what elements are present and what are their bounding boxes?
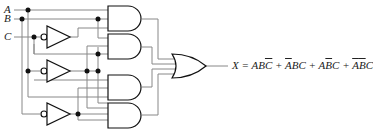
term-literal: B bbox=[258, 59, 265, 71]
output-expression: X = ABC + ABC + ABC + ABC bbox=[232, 60, 373, 71]
inverters bbox=[41, 26, 70, 125]
and-gate-4 bbox=[108, 103, 141, 128]
term-literal: C bbox=[299, 59, 306, 71]
input-b-label: B bbox=[4, 13, 11, 24]
and-gate-2 bbox=[108, 34, 141, 59]
term-literal: C bbox=[332, 59, 339, 71]
output-variable: X bbox=[232, 59, 239, 71]
plus-sign: + bbox=[275, 59, 282, 71]
equals-sign: = bbox=[241, 59, 248, 71]
inverter-c bbox=[41, 26, 70, 48]
plus-sign: + bbox=[309, 59, 316, 71]
plus-sign: + bbox=[342, 59, 349, 71]
and-gates bbox=[108, 6, 141, 128]
term-2: ABC bbox=[285, 59, 306, 71]
inverter-b bbox=[41, 103, 70, 125]
and-gate-3 bbox=[108, 75, 141, 100]
term-literal-negated: C bbox=[265, 59, 272, 71]
inverter-a bbox=[41, 60, 70, 82]
term-literal: B bbox=[292, 59, 299, 71]
junction-dots bbox=[20, 8, 101, 117]
term-literal-negated: A bbox=[285, 59, 292, 71]
term-literal-negated: A bbox=[352, 59, 359, 71]
or-gate bbox=[172, 54, 206, 78]
term-literal: C bbox=[366, 59, 373, 71]
term-3: ABC bbox=[319, 59, 340, 71]
term-4: ABC bbox=[352, 59, 373, 71]
and-gate-1 bbox=[108, 6, 141, 31]
input-c-label: C bbox=[4, 31, 11, 42]
term-1: ABC bbox=[251, 59, 272, 71]
term-literal-negated: B bbox=[359, 59, 366, 71]
